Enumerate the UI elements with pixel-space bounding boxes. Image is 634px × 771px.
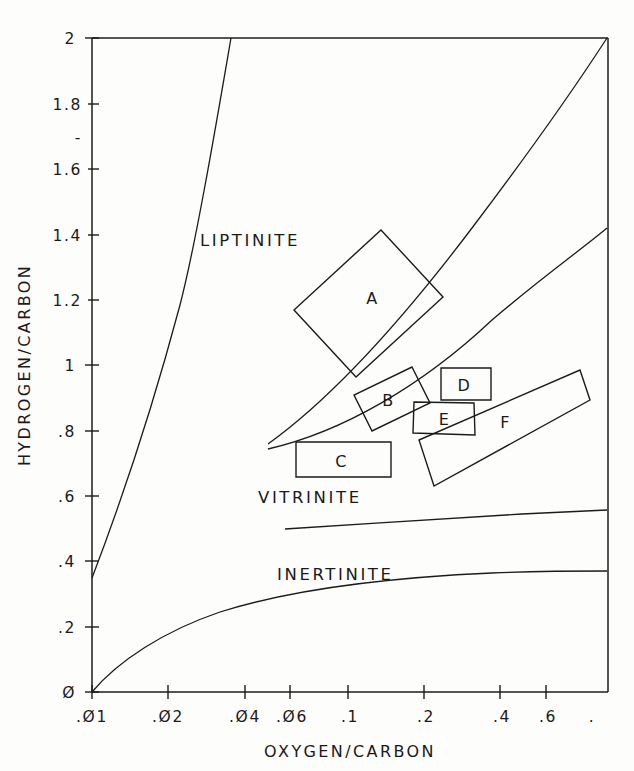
sample-region-a: A xyxy=(294,230,443,377)
region-label-e: E xyxy=(439,410,450,429)
liptinite-left-boundary-curve xyxy=(92,38,231,578)
y-tick-label: .4 xyxy=(58,553,76,571)
y-tick-label: 2 xyxy=(65,30,76,48)
axis-frame xyxy=(92,38,608,692)
region-label-b: B xyxy=(382,391,393,410)
region-label-f: F xyxy=(500,413,510,432)
y-tick-group: 1 xyxy=(65,357,99,375)
x-tick-label: .Ø6 xyxy=(276,708,308,726)
vitrinite-upper-boundary-curve xyxy=(268,228,607,449)
x-tick-label: .4 xyxy=(493,708,511,726)
x-tick-group: .Ø6 xyxy=(276,685,308,726)
x-axis-title: OXYGEN/CARBON xyxy=(264,742,436,761)
region-label-c: C xyxy=(335,452,347,471)
sample-region-d: D xyxy=(441,368,491,400)
vitrinite-field-label: VITRINITE xyxy=(258,488,362,507)
x-tick-label: .1 xyxy=(341,708,359,726)
x-tick-group: .4 xyxy=(493,685,511,726)
sample-region-c: C xyxy=(296,442,391,477)
x-tick-label: .Ø1 xyxy=(76,708,108,726)
y-tick-label: 1.6 xyxy=(53,161,82,179)
y-tick-label: .6 xyxy=(58,488,76,506)
liptinite-vitrinite-divider-curve xyxy=(268,38,607,444)
y-tick-label: - xyxy=(75,129,82,147)
y-tick-label: 1.2 xyxy=(53,292,82,310)
y-tick-label: 1 xyxy=(65,357,76,375)
y-tick-label: .2 xyxy=(58,619,76,637)
y-tick-group: .2 xyxy=(58,619,99,637)
x-tick-label: .2 xyxy=(417,708,435,726)
sample-region-b: B xyxy=(354,367,430,431)
region-label-a: A xyxy=(366,289,377,308)
y-tick-group: 2 xyxy=(65,30,99,48)
liptinite-field-label: LIPTINITE xyxy=(200,231,300,250)
inertinite-field-label: INERTINITE xyxy=(277,565,394,584)
x-tick-label: .6 xyxy=(539,708,557,726)
boundary-curves xyxy=(92,38,607,692)
y-tick-group: - xyxy=(75,129,82,147)
y-tick-label: .8 xyxy=(58,423,76,441)
y-tick-label: 1.4 xyxy=(53,227,82,245)
y-tick-group: .8 xyxy=(58,423,99,441)
x-tick-group: .1 xyxy=(341,685,359,726)
vitrinite-lower-boundary-curve xyxy=(285,510,607,529)
x-tick-label: .Ø4 xyxy=(229,708,261,726)
x-tick-group: .Ø4 xyxy=(229,685,261,726)
y-axis-title: HYDROGEN/CARBON xyxy=(15,264,34,466)
y-tick-group: .4 xyxy=(58,553,99,571)
inertinite-boundary-curve xyxy=(92,571,607,692)
y-tick-label: Ø xyxy=(62,684,76,702)
x-tick-group: .2 xyxy=(417,685,435,726)
y-tick-group: .6 xyxy=(58,488,99,506)
x-tick-label: .Ø2 xyxy=(152,708,184,726)
chart-canvas: Ø .2 .4 .6 .8 1 1.2 1.4 1.6 - 1.8 2 xyxy=(0,0,634,771)
y-tick-label: 1.8 xyxy=(53,96,82,114)
x-tick-group: . xyxy=(589,708,596,726)
maceral-field-labels: LIPTINITE VITRINITE INERTINITE xyxy=(200,231,394,584)
x-tick-label: . xyxy=(589,708,596,726)
region-label-d: D xyxy=(458,376,471,395)
van-krevelen-diagram: Ø .2 .4 .6 .8 1 1.2 1.4 1.6 - 1.8 2 xyxy=(0,0,634,771)
x-tick-group: .Ø2 xyxy=(152,685,184,726)
y-tick-group: Ø xyxy=(62,684,99,702)
x-tick-group: .6 xyxy=(539,685,557,726)
x-axis-ticks: .Ø1 .Ø2 .Ø4 .Ø6 .1 .2 .4 .6 . xyxy=(76,685,595,726)
